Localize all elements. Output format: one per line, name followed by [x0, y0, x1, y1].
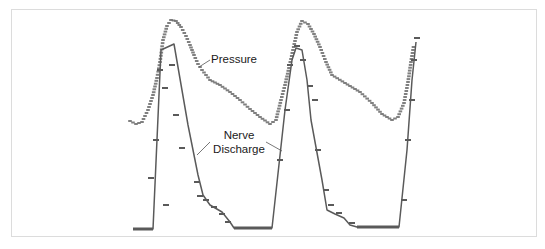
- pressure-point: [251, 110, 255, 112]
- pressure-point: [281, 93, 285, 95]
- pressure-point: [160, 45, 164, 47]
- pressure-point: [397, 113, 401, 115]
- nerve-tick-marker: [173, 114, 179, 116]
- pressure-point: [409, 61, 413, 63]
- nerve-tick-marker: [277, 159, 283, 161]
- pressure-point: [279, 99, 283, 101]
- nerve-baseline-marker: [357, 226, 399, 229]
- pressure-point: [195, 60, 199, 62]
- pressure-label: Pressure: [211, 52, 257, 66]
- pressure-point: [315, 38, 319, 40]
- pressure-point: [291, 49, 295, 51]
- nerve-tick-marker: [294, 45, 300, 47]
- nerve-discharge-series: [133, 37, 420, 231]
- pressure-point: [378, 111, 382, 113]
- pressure-point: [406, 84, 410, 86]
- pressure-point: [407, 78, 411, 80]
- pressure-point: [194, 57, 198, 59]
- nerve-tick-marker: [219, 213, 225, 215]
- nerve-discharge-line: [133, 42, 416, 229]
- pressure-point: [263, 120, 267, 122]
- pressure-point: [408, 70, 412, 72]
- pressure-point: [408, 72, 412, 74]
- pressure-point: [280, 96, 284, 98]
- pressure-point: [372, 104, 376, 106]
- pressure-point: [271, 121, 275, 123]
- pressure-point: [142, 118, 146, 120]
- pressure-point: [206, 77, 210, 79]
- pressure-point: [148, 103, 152, 105]
- pressure-point: [243, 104, 247, 106]
- nerve-tick-marker: [163, 204, 169, 206]
- nerve-tick-marker: [409, 99, 415, 101]
- pressure-point: [164, 28, 168, 30]
- nerve-discharge-label: Nerve Discharge: [209, 128, 269, 156]
- nerve-tick-marker: [401, 199, 407, 201]
- pressure-point: [358, 91, 362, 93]
- pressure-series: [128, 19, 415, 125]
- pressure-point: [293, 40, 297, 42]
- pressure-point: [236, 97, 240, 99]
- pressure-point: [149, 100, 153, 102]
- pressure-point: [233, 95, 237, 97]
- pressure-point: [140, 121, 144, 123]
- pressure-point: [253, 112, 257, 114]
- pressure-point: [319, 49, 323, 51]
- nerve-label-line2: Discharge: [209, 142, 269, 156]
- pressure-point: [196, 63, 200, 65]
- pressure-point: [167, 22, 171, 24]
- pressure-point: [321, 52, 325, 54]
- pressure-point: [376, 109, 380, 111]
- pressure-point: [156, 74, 160, 76]
- pressure-point: [163, 33, 167, 35]
- pressure-point: [200, 69, 204, 71]
- pressure-point: [294, 37, 298, 39]
- pressure-point: [370, 102, 374, 104]
- pressure-point: [298, 26, 302, 28]
- pressure-point: [329, 71, 333, 73]
- pressure-point: [223, 88, 227, 90]
- nerve-tick-marker: [225, 221, 231, 223]
- pressure-point: [282, 90, 286, 92]
- pressure-point: [286, 73, 290, 75]
- pressure-point: [276, 110, 280, 112]
- pressure-point: [407, 75, 411, 77]
- nerve-tick-marker: [157, 69, 163, 71]
- pressure-point: [396, 116, 400, 118]
- pressure-point: [162, 36, 166, 38]
- pressure-point: [161, 42, 165, 44]
- pressure-point: [282, 87, 286, 89]
- pressure-point: [238, 99, 242, 101]
- pressure-point: [241, 101, 245, 103]
- pressure-point: [374, 106, 378, 108]
- pressure-point: [218, 84, 222, 86]
- pressure-point: [400, 108, 404, 110]
- pressure-point: [146, 109, 150, 111]
- nerve-tick-marker: [315, 149, 321, 151]
- pressure-leader-line: [199, 60, 210, 67]
- pressure-point: [231, 93, 235, 95]
- pressure-point: [181, 29, 185, 31]
- pressure-point: [408, 67, 412, 69]
- pressure-point: [322, 55, 326, 57]
- pressure-point: [309, 28, 313, 30]
- pressure-point: [316, 41, 320, 43]
- pressure-point: [296, 28, 300, 30]
- pressure-point: [328, 69, 332, 71]
- pressure-point: [191, 52, 195, 54]
- pressure-point: [161, 39, 165, 41]
- nerve-tick-marker: [323, 189, 329, 191]
- pressure-point: [327, 66, 331, 68]
- pressure-point: [311, 31, 315, 33]
- pressure-point: [365, 98, 369, 100]
- nerve-tick-marker: [328, 204, 334, 206]
- nerve-tick-marker: [287, 64, 293, 66]
- nerve-tick-marker: [414, 37, 420, 39]
- nerve-label-line1: Nerve: [209, 128, 269, 142]
- pressure-point: [153, 86, 157, 88]
- pressure-point: [318, 46, 322, 48]
- pressure-point: [403, 99, 407, 101]
- nerve-tick-marker: [349, 222, 355, 224]
- pressure-point: [401, 105, 405, 107]
- pressure-point: [275, 116, 279, 118]
